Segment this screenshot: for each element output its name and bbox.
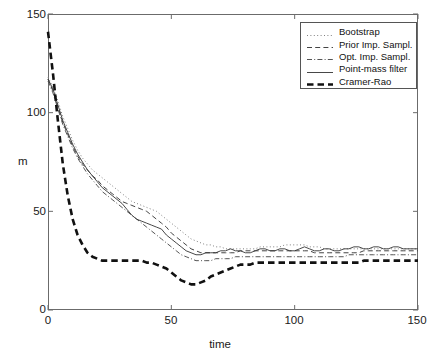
legend-line-sample	[305, 27, 335, 38]
series-line-prior-imp-sampl	[48, 79, 418, 253]
legend-line-sample	[305, 51, 335, 62]
series-line-bootstrap	[48, 77, 418, 249]
series-line-opt-imp-sampl	[48, 81, 418, 261]
legend-item-point-mass-filter[interactable]: Point-mass filter	[301, 63, 416, 75]
x-tick-label-150: 150	[393, 315, 440, 327]
legend-label: Cramer-Rao	[339, 77, 391, 87]
legend-label: Prior Imp. Sampl.	[339, 40, 412, 50]
legend-item-prior-imp-sampl[interactable]: Prior Imp. Sampl.	[301, 38, 416, 50]
x-tick-label-100: 100	[270, 315, 318, 327]
x-axis-label: time	[0, 338, 440, 350]
legend-label: Point-mass filter	[339, 64, 407, 74]
series-line-point-mass-filter	[48, 79, 418, 255]
legend-label: Opt. Imp. Sampl.	[339, 52, 410, 62]
legend-line-sample	[305, 39, 335, 50]
y-tick-label-0: 0	[0, 304, 46, 316]
chart-figure: 150 100 50 0 0 50 100 150 m time Bootstr…	[0, 0, 440, 361]
y-tick-label-150: 150	[0, 9, 46, 21]
legend-item-bootstrap[interactable]: Bootstrap	[301, 26, 416, 38]
y-tick-label-100: 100	[0, 107, 46, 119]
x-tick-label-0: 0	[24, 315, 72, 327]
legend-item-cramer-rao[interactable]: Cramer-Rao	[301, 76, 416, 88]
x-tick-label-50: 50	[147, 315, 195, 327]
legend-line-sample	[305, 76, 335, 87]
legend-item-opt-imp-sampl[interactable]: Opt. Imp. Sampl.	[301, 51, 416, 63]
chart-legend: BootstrapPrior Imp. Sampl.Opt. Imp. Samp…	[300, 22, 417, 89]
legend-line-sample	[305, 64, 335, 75]
y-tick-label-50: 50	[0, 206, 46, 218]
legend-label: Bootstrap	[339, 27, 380, 37]
y-axis-label: m	[18, 155, 28, 167]
